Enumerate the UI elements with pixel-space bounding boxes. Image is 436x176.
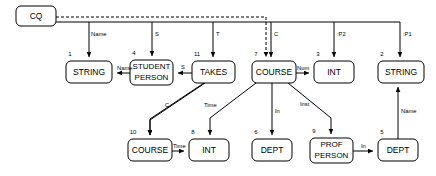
node-prof-person-label-1: PROF xyxy=(320,140,342,149)
node-cq[interactable]: CQ xyxy=(16,6,56,26)
node-student-person-label-2: PERSON xyxy=(135,73,169,82)
edge-label-cq-p2: :P2 xyxy=(337,31,346,37)
node-takes-label: TAKES xyxy=(200,67,228,77)
node-int8[interactable]: 8 INT xyxy=(189,129,229,161)
edge-label-student-person-name: Name xyxy=(117,65,132,71)
edge-label-cq-c: C xyxy=(274,31,278,37)
edge-group-takes-down xyxy=(150,83,205,135)
node-student-person-label-1: STUDENT xyxy=(133,62,171,71)
node-course7[interactable]: 7 COURSE xyxy=(252,51,296,83)
edge-label-prof-person-in: In xyxy=(361,143,366,149)
diagram-canvas: CQ 1 STRING 4 STUDENT PERSON 11 TAKES 7 … xyxy=(0,0,436,176)
edge-course7-to-prof-person xyxy=(288,83,331,134)
node-course7-index: 7 xyxy=(254,51,258,57)
edge-label-cq-name: Name xyxy=(91,31,106,37)
node-string2-label: STRING xyxy=(385,67,417,77)
cq-query-graph: CQ 1 STRING 4 STUDENT PERSON 11 TAKES 7 … xyxy=(0,0,436,176)
node-string2-index: 2 xyxy=(380,51,384,57)
node-course7-label: COURSE xyxy=(256,67,293,77)
edge-label-course7-num: Num xyxy=(297,65,309,71)
edge-label-dept5-name: Name xyxy=(401,108,416,114)
edge-label-takes-s: S xyxy=(181,64,185,70)
node-int8-label: INT xyxy=(202,145,216,155)
node-string1-index: 1 xyxy=(68,51,72,57)
node-dept5-label: DEPT xyxy=(387,145,410,155)
edge-label-course7-in: In xyxy=(275,108,280,114)
node-dept5-index: 5 xyxy=(380,129,384,135)
edge-label-cq-s: S xyxy=(155,31,159,37)
node-course10-index: 10 xyxy=(130,129,137,135)
node-string1-label: STRING xyxy=(73,67,105,77)
node-string2[interactable]: 2 STRING xyxy=(378,51,424,83)
edge-label-takes-time: Time xyxy=(204,102,217,108)
edge-label-course10-time: Time xyxy=(173,143,186,149)
node-int8-index: 8 xyxy=(191,129,195,135)
node-int3-label: INT xyxy=(327,67,341,77)
node-prof-person-label-2: PERSON xyxy=(315,151,349,160)
edge-course7-to-int8 xyxy=(210,83,256,135)
node-takes-index: 11 xyxy=(194,51,201,57)
edge-group-takes-outgoing xyxy=(150,83,204,135)
edge-label-course7-inst: Inst xyxy=(300,101,310,107)
node-int3-index: 3 xyxy=(316,51,320,57)
node-prof-person-index: 9 xyxy=(312,128,316,134)
node-dept6-label: DEPT xyxy=(261,145,284,155)
node-cq-label: CQ xyxy=(30,11,43,21)
node-student-person-index: 4 xyxy=(132,50,136,56)
edge-label-cq-p1: :P1 xyxy=(403,31,412,37)
node-dept6-index: 6 xyxy=(254,129,258,135)
edge-group-cq xyxy=(56,17,400,57)
node-course10-label: COURSE xyxy=(132,145,169,155)
edge-takes-to-course10-path xyxy=(150,83,204,135)
edge-takes-to-course10 xyxy=(150,83,205,135)
edge-label-cq-t: T xyxy=(216,31,220,37)
